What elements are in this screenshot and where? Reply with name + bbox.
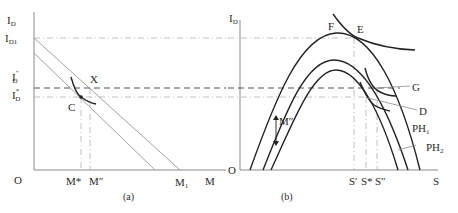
diagram-canvas: ID ID1 I″D I*D X C O M* M″ M1 M (a) [0, 0, 458, 213]
panel-b-x-axis-label: S [433, 175, 439, 187]
panel-a-origin-label: O [14, 174, 22, 186]
panel-b-y-axis-label: ID [229, 12, 238, 26]
panel-b-ph2-label: PH2 [426, 141, 444, 155]
panel-a-lower-budget-line [34, 53, 155, 170]
panel-b-tick-s-prime: S′ [349, 175, 358, 187]
panel-b-indifference-curve-g [365, 68, 396, 96]
panel-a-tick-id-star: I*D [12, 87, 20, 103]
panel-b-point-d-label: D [419, 105, 427, 117]
panel-b-origin-label: O [228, 164, 236, 176]
panel-b-outer-curve [250, 33, 420, 170]
panel-a-point-c-marker [79, 95, 83, 99]
panel-a-tick-m1: M1 [175, 176, 189, 190]
figure: ID ID1 I″D I*D X C O M* M″ M1 M (a) [0, 0, 458, 213]
panel-b-caption: (b) [281, 191, 293, 203]
panel-b-d-leader [368, 98, 417, 110]
panel-a-tick-id1: ID1 [5, 32, 18, 46]
panel-b-ph1-label: PH1 [412, 122, 430, 136]
panel-a: ID ID1 I″D I*D X C O M* M″ M1 M (a) [5, 12, 226, 203]
panel-b: ID F E G D PH1 PH2 M″ O S′ S* S″ S (b) [228, 12, 444, 203]
panel-a-point-x-label: X [90, 73, 98, 85]
panel-b-indifference-curve-d [360, 82, 390, 111]
panel-b-point-f-label: F [328, 20, 334, 32]
panel-b-tick-s-star: S* [361, 175, 373, 187]
panel-b-shift-label: M″ [279, 115, 293, 127]
panel-a-tick-id-double-prime: I″D [12, 69, 19, 85]
panel-a-caption: (a) [123, 191, 134, 203]
panel-a-y-axis-label: ID [7, 14, 16, 28]
panel-a-upper-budget-line [34, 38, 180, 170]
panel-a-x-axis-label: M [205, 175, 215, 187]
panel-a-tick-m-double-prime: M″ [89, 175, 103, 187]
panel-b-tick-s-double-prime: S″ [375, 175, 386, 187]
panel-a-tick-m-star: M* [66, 175, 81, 187]
panel-b-point-g-label: G [412, 81, 420, 93]
panel-b-indifference-curve-e [333, 14, 415, 50]
panel-a-point-c-label: C [68, 101, 75, 113]
panel-b-point-e-label: E [357, 23, 364, 35]
